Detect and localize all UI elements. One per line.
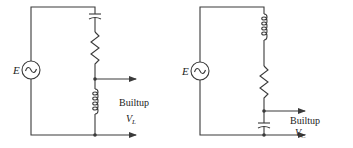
output-label: Builtup — [290, 115, 320, 126]
output-voltage: VL — [126, 113, 136, 126]
inductor-icon — [93, 79, 98, 135]
right-bottom-wire — [200, 80, 264, 135]
right-top-wire — [200, 7, 264, 62]
left-top-wire — [31, 7, 95, 61]
source-label: E — [181, 65, 189, 77]
ac-source-icon — [22, 61, 40, 79]
capacitor-icon — [258, 111, 270, 135]
ac-source-icon — [191, 62, 209, 80]
resistor-icon — [91, 32, 99, 79]
output-voltage: VC — [295, 127, 306, 140]
resistor-icon — [260, 66, 268, 111]
output-label: Builtup — [119, 97, 149, 108]
capacitor-icon — [89, 14, 101, 32]
right-circuit: E Builtup VC — [181, 7, 320, 140]
left-bottom-wire — [31, 79, 95, 135]
circuit-diagrams: E Builtup VL E — [0, 0, 353, 148]
left-circuit: E Builtup VL — [12, 7, 149, 137]
inductor-icon — [262, 14, 267, 66]
source-label: E — [12, 64, 20, 76]
